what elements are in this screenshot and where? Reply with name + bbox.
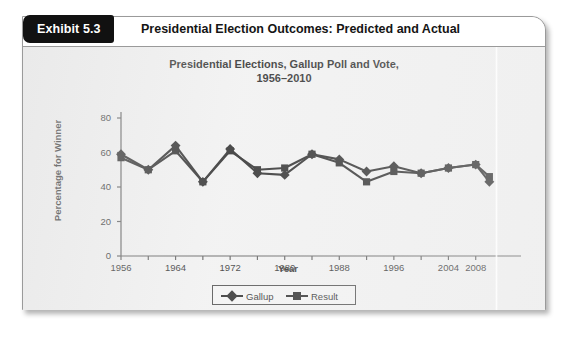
exhibit-header: Exhibit 5.3 Presidential Election Outcom… <box>23 17 545 47</box>
exhibit-number-badge: Exhibit 5.3 <box>23 15 114 43</box>
chart-svg-canvas <box>23 47 545 310</box>
series-result <box>117 147 493 185</box>
legend-square-marker-icon <box>286 289 308 303</box>
legend-diamond-marker-icon <box>221 289 243 303</box>
chart-plot-area: Percentage for Winner Year 020406080 195… <box>23 47 545 310</box>
legend-item-gallup: Gallup <box>221 289 273 303</box>
chart-legend: Gallup Result <box>212 285 356 305</box>
legend-item-result: Result <box>286 289 338 303</box>
series-gallup <box>116 141 494 187</box>
exhibit-card: Exhibit 5.3 Presidential Election Outcom… <box>22 16 546 310</box>
exhibit-body: Presidential Elections, Gallup Poll and … <box>23 47 545 310</box>
legend-label-result: Result <box>311 291 338 302</box>
screenshot-root: Exhibit 5.3 Presidential Election Outcom… <box>0 0 580 344</box>
legend-label-gallup: Gallup <box>246 291 273 302</box>
exhibit-title: Presidential Election Outcomes: Predicte… <box>141 15 460 43</box>
